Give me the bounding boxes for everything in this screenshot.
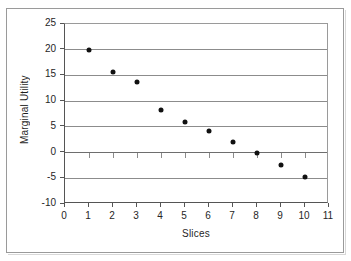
x-tick-2 [112,203,113,207]
x-axis-title: Slices [64,228,328,239]
data-point [303,174,308,179]
x-tick-label-0: 0 [54,211,74,221]
x-tick-11 [328,203,329,207]
x-tick-label-2: 2 [102,211,122,221]
data-point [111,69,116,74]
data-point [183,119,188,124]
x-tick-6 [208,203,209,207]
gridline-y-5 [65,126,327,127]
y-tick-label-25: 25 [0,18,56,28]
x-tick-label-11: 11 [318,211,338,221]
y-tick-10 [60,100,64,101]
gridline-y-10 [65,101,327,102]
x-tick-5 [184,203,185,207]
data-point [159,107,164,112]
zero-axis-tick-9 [281,153,282,158]
x-tick-label-5: 5 [174,211,194,221]
x-tick-1 [88,203,89,207]
x-tick-label-3: 3 [126,211,146,221]
zero-axis-tick-4 [161,153,162,158]
data-point [135,79,140,84]
gridline-y--5 [65,178,327,179]
gridline-y-20 [65,49,327,50]
x-tick-label-1: 1 [78,211,98,221]
x-tick-10 [304,203,305,207]
chart-figure: -10-50510152025 01234567891011 Marginal … [0,0,351,261]
zero-axis-tick-5 [185,153,186,158]
x-tick-label-6: 6 [198,211,218,221]
y-tick-5 [60,125,64,126]
zero-axis-tick-10 [305,153,306,158]
gridline-y-15 [65,75,327,76]
plot-area [64,23,328,203]
data-point [231,139,236,144]
x-tick-7 [232,203,233,207]
x-tick-3 [136,203,137,207]
y-tick-25 [60,23,64,24]
zero-axis-tick-3 [137,153,138,158]
x-tick-label-10: 10 [294,211,314,221]
data-point [255,150,260,155]
x-tick-9 [280,203,281,207]
y-tick-0 [60,151,64,152]
x-tick-4 [160,203,161,207]
zero-axis-tick-2 [113,153,114,158]
y-tick-15 [60,74,64,75]
y-tick--5 [60,177,64,178]
y-tick-label--10: -10 [0,198,56,208]
y-tick-label--5: -5 [0,172,56,182]
x-tick-label-9: 9 [270,211,290,221]
x-tick-8 [256,203,257,207]
y-tick-20 [60,48,64,49]
zero-axis-tick-6 [209,153,210,158]
zero-axis-tick-7 [233,153,234,158]
y-axis-title: Marginal Utility [17,50,31,170]
x-tick-0 [64,203,65,207]
gridline-y-0 [65,152,327,153]
x-tick-label-8: 8 [246,211,266,221]
x-tick-label-7: 7 [222,211,242,221]
x-tick-label-4: 4 [150,211,170,221]
zero-axis-tick-1 [89,153,90,158]
data-point [87,47,92,52]
data-point [279,163,284,168]
data-point [207,128,212,133]
